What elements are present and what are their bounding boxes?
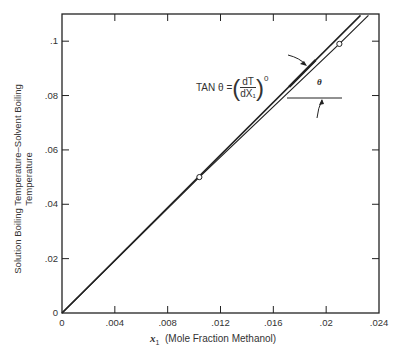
right-paren: ) bbox=[256, 78, 264, 98]
x-tick-label: .016 bbox=[264, 317, 283, 328]
y-tick-label: .08 bbox=[45, 90, 58, 101]
x-axis-subscript: 1 bbox=[156, 339, 160, 346]
tangent-arrowhead bbox=[300, 61, 307, 66]
y-tick-label: .1 bbox=[50, 35, 58, 46]
y-tick-label: .02 bbox=[45, 253, 58, 264]
series-line bbox=[62, 15, 368, 313]
x-tick-label: .02 bbox=[320, 317, 333, 328]
tangent-equation: TAN θ = ( dT dX₁ ) 0 bbox=[196, 76, 268, 99]
y-axis-title-line2: Temperature bbox=[23, 64, 34, 294]
data-point-marker bbox=[337, 41, 342, 46]
x-tick-label: .024 bbox=[370, 317, 389, 328]
data-lines bbox=[62, 15, 368, 313]
x-tick-label: 0 bbox=[59, 317, 64, 328]
x-axis-title: x1 (Mole Fraction Methanol) bbox=[150, 332, 276, 346]
left-paren: ( bbox=[232, 78, 240, 98]
plot-frame bbox=[62, 14, 379, 313]
x-tick-label: .004 bbox=[106, 317, 125, 328]
x-tick-label: .008 bbox=[158, 317, 177, 328]
chart-plot: 0.004.008.012.016.02.0240.02.04.06.08.1 bbox=[0, 0, 399, 358]
theta-label: θ bbox=[317, 77, 322, 87]
x-axis-description: (Mole Fraction Methanol) bbox=[165, 333, 276, 344]
fraction-denominator: dX₁ bbox=[240, 88, 256, 99]
data-point-marker bbox=[197, 174, 202, 179]
y-tick-label: 0 bbox=[53, 307, 58, 318]
y-axis-title-line1: Solution Boiling Temperature–Solvent Boi… bbox=[12, 64, 23, 294]
superscript-zero: 0 bbox=[264, 74, 268, 83]
derivative-fraction: dT dX₁ bbox=[240, 76, 256, 99]
fraction-numerator: dT bbox=[240, 76, 256, 88]
axis-ticks bbox=[62, 14, 379, 313]
y-axis-title: Solution Boiling Temperature–Solvent Boi… bbox=[12, 64, 34, 294]
tan-prefix: TAN θ = bbox=[196, 82, 232, 93]
y-tick-label: .04 bbox=[45, 198, 58, 209]
x-tick-label: .012 bbox=[211, 317, 230, 328]
y-tick-label: .06 bbox=[45, 144, 58, 155]
